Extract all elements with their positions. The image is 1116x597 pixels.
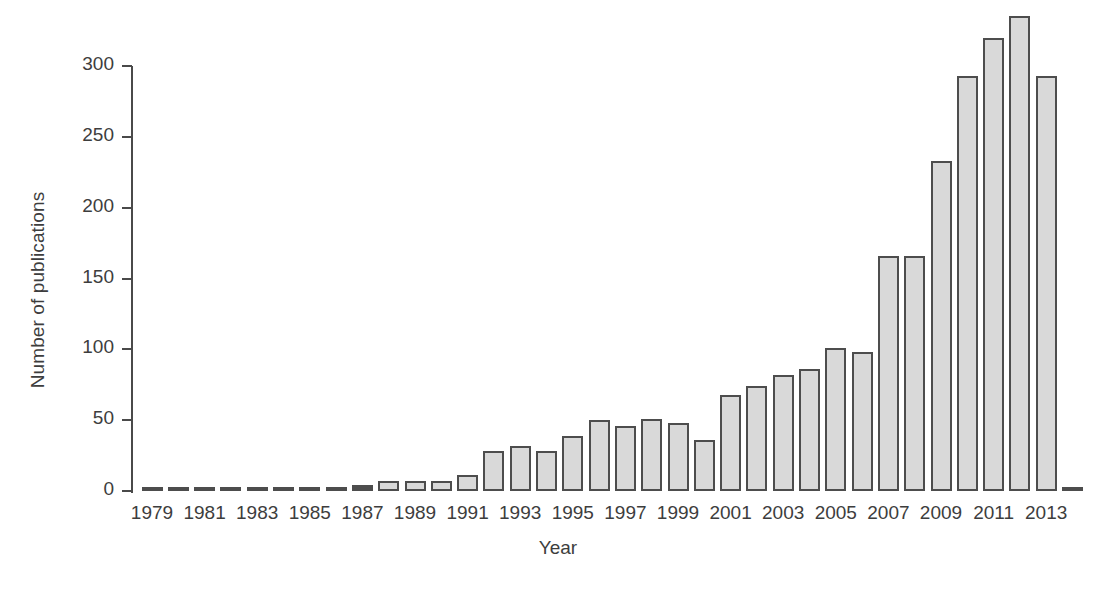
bar (142, 487, 163, 491)
y-axis-tick (122, 490, 132, 492)
x-axis-title: Year (0, 537, 1116, 559)
bar (668, 423, 689, 491)
x-axis-tick-label: 1989 (387, 502, 443, 524)
bar (457, 475, 478, 491)
y-axis-tick-label: 50 (52, 407, 114, 429)
bar (1036, 76, 1057, 491)
y-axis-tick-label: 150 (52, 266, 114, 288)
bar (641, 419, 662, 491)
x-axis-tick-label: 1979 (124, 502, 180, 524)
bar (326, 487, 347, 491)
y-axis-tick (122, 136, 132, 138)
x-axis-tick-label: 1983 (229, 502, 285, 524)
bar (483, 451, 504, 491)
bar (773, 375, 794, 491)
y-axis-tick-label: 100 (52, 336, 114, 358)
bar (247, 487, 268, 491)
bar (852, 352, 873, 491)
bar (1009, 16, 1030, 491)
bar (1062, 487, 1083, 491)
y-axis-tick (122, 207, 132, 209)
y-axis-tick (122, 419, 132, 421)
x-axis-tick-labels: 1979198119831985198719891991199319951997… (133, 502, 1083, 532)
x-axis-tick-label: 2003 (755, 502, 811, 524)
bar (694, 440, 715, 491)
x-axis-tick-label: 2005 (808, 502, 864, 524)
y-axis-tick-label: 0 (52, 478, 114, 500)
y-axis-title: Number of publications (27, 80, 49, 500)
x-axis-tick-label: 1995 (545, 502, 601, 524)
bar (878, 256, 899, 491)
x-axis-tick-label: 2009 (913, 502, 969, 524)
bar (168, 487, 189, 491)
x-axis-tick-label: 2007 (860, 502, 916, 524)
x-axis-tick-label: 2011 (966, 502, 1022, 524)
bar (983, 38, 1004, 491)
y-axis-tick-label: 250 (52, 124, 114, 146)
publications-bar-chart: Number of publications 05010015020025030… (0, 0, 1116, 597)
bar (799, 369, 820, 491)
x-axis-tick-label: 1997 (597, 502, 653, 524)
bar (194, 487, 215, 491)
x-axis-tick-label: 1987 (334, 502, 390, 524)
bar (352, 485, 373, 491)
bar (931, 161, 952, 491)
bar (904, 256, 925, 491)
y-axis-tick (122, 65, 132, 67)
bar (220, 487, 241, 491)
bar (405, 481, 426, 491)
bar (720, 395, 741, 491)
x-axis-tick-label: 1991 (440, 502, 496, 524)
x-axis-tick-label: 1985 (282, 502, 338, 524)
bar (589, 420, 610, 491)
bar (378, 481, 399, 491)
bar (431, 481, 452, 491)
x-axis-tick-label: 1981 (177, 502, 233, 524)
bar (510, 446, 531, 491)
bar (746, 386, 767, 491)
x-axis-tick-label: 2013 (1018, 502, 1074, 524)
x-axis-tick-label: 1993 (492, 502, 548, 524)
bar (825, 348, 846, 491)
bar (299, 487, 320, 491)
bar (562, 436, 583, 491)
y-axis-tick-label: 300 (52, 53, 114, 75)
y-axis-tick (122, 348, 132, 350)
bar (957, 76, 978, 491)
y-axis-tick-label: 200 (52, 195, 114, 217)
x-axis-tick-label: 1999 (650, 502, 706, 524)
y-axis-tick (122, 278, 132, 280)
bar (615, 426, 636, 491)
bar (273, 487, 294, 491)
plot-area (133, 0, 1083, 493)
bar (536, 451, 557, 491)
x-axis-tick-label: 2001 (703, 502, 759, 524)
